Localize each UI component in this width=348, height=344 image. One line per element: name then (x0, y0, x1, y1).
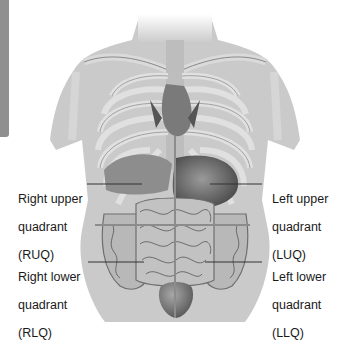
label-rlq: Right lower quadrant (RLQ) (18, 256, 81, 344)
label-llq: Left lower quadrant (LLQ) (272, 256, 326, 344)
